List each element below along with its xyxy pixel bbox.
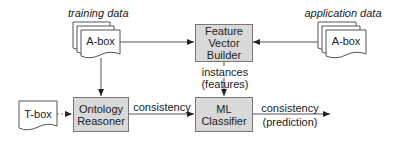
prediction-label: (prediction) <box>260 116 320 128</box>
instances-label: instances <box>196 66 254 78</box>
feature-vector-builder-node: Feature Vector Builder <box>195 24 253 62</box>
reasoner-line-1: Ontology <box>77 103 125 115</box>
tbox-label: T-box <box>19 108 57 120</box>
fvb-line-1: Feature <box>205 25 243 37</box>
reasoner-line-2: Reasoner <box>77 115 125 127</box>
classifier-line-2: Classifier <box>201 115 246 127</box>
ml-classifier-node: ML Classifier <box>195 97 253 132</box>
fvb-line-2: Vector <box>205 37 243 49</box>
application-abox-label: A-box <box>326 35 366 47</box>
training-data-label: training data <box>68 7 128 19</box>
ontology-reasoner-node: Ontology Reasoner <box>73 97 129 132</box>
fvb-line-3: Builder <box>205 49 243 61</box>
features-label: (features) <box>196 78 254 90</box>
training-abox-label: A-box <box>81 35 120 47</box>
consistency-out-label: consistency <box>260 102 320 114</box>
application-data-label: application data <box>304 7 382 19</box>
consistency-mid-label: consistency <box>132 101 192 113</box>
classifier-line-1: ML <box>201 103 246 115</box>
